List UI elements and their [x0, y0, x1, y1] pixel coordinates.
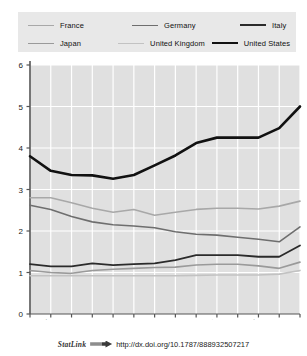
legend-label-germany: Germany: [164, 21, 196, 30]
legend-swatch-united-kingdom: [118, 43, 144, 44]
x-axis-tick-label: 1999: [77, 318, 94, 320]
y-axis-tick-label: 5: [19, 103, 24, 112]
legend-label-france: France: [60, 21, 84, 30]
plot-area: 0123456199619971998199920002001200220032…: [0, 58, 307, 320]
y-axis-tick-label: 1: [19, 269, 24, 278]
y-axis-tick-label: 3: [19, 186, 24, 195]
x-axis-tick-label: 2002: [139, 318, 156, 320]
y-axis-tick-label: 2: [19, 227, 24, 236]
legend-label-united-states: United States: [244, 39, 290, 48]
legend-item-japan[interactable]: Japan: [28, 39, 118, 48]
x-axis-tick-label: 1998: [56, 318, 73, 320]
legend-swatch-italy: [240, 24, 266, 26]
legend-row-2: Japan United Kingdom United States: [28, 34, 290, 52]
x-axis-tick-label: 2008: [264, 318, 281, 320]
legend-label-italy: Italy: [272, 21, 286, 30]
legend-row-1: France Germany Italy: [28, 16, 290, 34]
x-axis-tick-label: 2004: [181, 318, 198, 320]
legend-item-united-kingdom[interactable]: United Kingdom: [118, 39, 212, 48]
legend-item-germany[interactable]: Germany: [132, 21, 240, 30]
y-axis-tick-label: 0: [19, 310, 24, 319]
x-axis-tick-label: 1997: [35, 318, 52, 320]
legend-swatch-germany: [132, 25, 158, 26]
x-axis-tick-label: 1996: [15, 318, 32, 320]
x-axis-tick-label: 2006: [222, 318, 239, 320]
legend-item-italy[interactable]: Italy: [240, 21, 286, 30]
chart-footer: StatLink http://dx.doi.org/10.1787/88893…: [0, 334, 307, 354]
legend-swatch-japan: [28, 43, 54, 44]
x-axis-tick-label: 2001: [119, 318, 136, 320]
x-axis-tick-label: 2005: [202, 318, 219, 320]
arrow-bar-icon: [90, 341, 112, 348]
legend-item-united-states[interactable]: United States: [212, 39, 290, 48]
y-axis-tick-label: 6: [19, 61, 24, 70]
statlink-label: StatLink: [58, 340, 86, 349]
x-axis-tick-label: 2003: [160, 318, 177, 320]
legend-label-japan: Japan: [60, 39, 81, 48]
chart-legend: France Germany Italy Japan United Kingdo…: [18, 12, 296, 52]
x-axis-tick-label: 2009: [285, 318, 302, 320]
plot-svg: 0123456199619971998199920002001200220032…: [0, 58, 307, 320]
legend-label-united-kingdom: United Kingdom: [150, 39, 205, 48]
chart-root: France Germany Italy Japan United Kingdo…: [0, 0, 307, 356]
statlink-url[interactable]: http://dx.doi.org/10.1787/888932507217: [116, 340, 249, 349]
x-axis-tick-label: 2000: [98, 318, 115, 320]
y-axis-tick-label: 4: [19, 144, 24, 153]
legend-swatch-france: [28, 25, 54, 26]
x-axis-tick-label: 2007: [243, 318, 260, 320]
legend-swatch-united-states: [212, 42, 238, 44]
legend-item-france[interactable]: France: [28, 21, 132, 30]
